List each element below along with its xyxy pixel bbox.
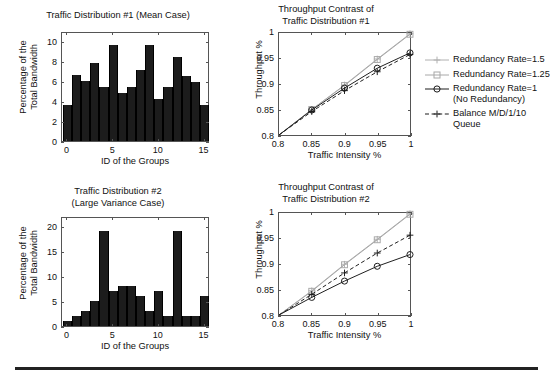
x-tick: [204, 139, 205, 142]
x-tick-label: 15: [199, 145, 209, 155]
x-axis-title: ID of the Groups: [61, 341, 209, 351]
bar: [72, 316, 81, 326]
legend-plus-icon: [424, 108, 450, 119]
y-tick: [206, 302, 209, 303]
line-series: [279, 33, 410, 135]
x-tick: [158, 324, 159, 327]
data-point-plus: [341, 270, 348, 277]
y-tick: [408, 316, 411, 317]
legend-item: Balance M/D/1/10 Queue: [424, 108, 552, 131]
y-tick-label: 8: [29, 57, 57, 67]
y-tick: [206, 252, 209, 253]
legend-circle-icon: [424, 83, 450, 94]
x-tick: [311, 32, 312, 35]
legend: Redundancy Rate=1.5Redundancy Rate=1.25R…: [424, 54, 552, 126]
legend-plus-icon: [424, 54, 450, 65]
y-tick: [408, 136, 411, 137]
x-tick: [112, 32, 113, 35]
y-tick: [206, 142, 209, 143]
x-tick-label: 0.95: [369, 319, 387, 329]
bar: [90, 63, 99, 141]
y-tick-label: 0.9: [244, 79, 274, 89]
x-axis-title: Traffic Intensity %: [278, 150, 411, 160]
bar: [154, 291, 163, 326]
y-tick: [206, 102, 209, 103]
bar: [191, 82, 200, 141]
bar: [72, 75, 81, 141]
y-tick: [278, 32, 281, 33]
y-tick-label: 20: [29, 222, 57, 232]
x-axis-title: Traffic Intensity %: [278, 330, 411, 340]
x-tick-label: 5: [110, 330, 115, 340]
y-tick: [61, 327, 64, 328]
y-tick-label: 10: [29, 37, 57, 47]
bar: [63, 321, 72, 326]
bar: [163, 87, 172, 141]
x-tick: [158, 217, 159, 220]
panel-throughput-contrast-1: Throughput Contrast of Traffic Distribut…: [236, 4, 421, 170]
y-tick: [61, 122, 64, 123]
panel-title: Throughput Contrast of Traffic Distribut…: [242, 4, 410, 27]
x-tick: [411, 32, 412, 35]
x-tick-label: 0: [64, 330, 69, 340]
bar: [173, 57, 182, 141]
bar-series: [62, 33, 208, 141]
bar: [81, 81, 90, 141]
y-tick: [61, 62, 64, 63]
x-tick-label: 15: [199, 330, 209, 340]
bar: [163, 316, 172, 326]
y-tick: [278, 58, 281, 59]
x-tick: [411, 212, 412, 215]
x-tick: [345, 133, 346, 136]
y-tick: [408, 290, 411, 291]
x-tick: [112, 139, 113, 142]
x-tick: [158, 32, 159, 35]
y-tick: [408, 110, 411, 111]
x-tick: [66, 324, 67, 327]
panel-traffic-distribution-2: Traffic Distribution #2 (Large Variance …: [8, 186, 228, 351]
y-tick: [408, 264, 411, 265]
x-tick: [112, 217, 113, 220]
data-point-plus: [374, 250, 381, 257]
bar: [200, 105, 209, 141]
bar: [99, 231, 108, 326]
bar: [136, 296, 145, 326]
bar: [127, 87, 136, 141]
y-tick: [61, 277, 64, 278]
y-tick: [408, 32, 411, 33]
y-tick: [206, 122, 209, 123]
line-series: [279, 213, 410, 315]
bar: [118, 286, 127, 326]
plot-area: [278, 212, 411, 316]
x-tick-label: 10: [153, 330, 163, 340]
bar-series: [62, 218, 208, 326]
x-tick: [311, 313, 312, 316]
y-tick-label: 0.9: [244, 259, 274, 269]
x-tick-label: 5: [110, 145, 115, 155]
panel-title: Throughput Contrast of Traffic Distribut…: [242, 182, 410, 205]
y-tick: [61, 302, 64, 303]
x-tick-label: 10: [153, 145, 163, 155]
data-point-plus: [434, 111, 441, 118]
y-tick: [278, 110, 281, 111]
x-tick: [345, 32, 346, 35]
legend-label: Redundancy Rate=1.25: [453, 69, 550, 80]
x-tick: [378, 133, 379, 136]
legend-item: Redundancy Rate=1.5: [424, 54, 545, 65]
bar: [99, 87, 108, 141]
x-tick: [112, 324, 113, 327]
x-tick-label: 0.85: [302, 319, 320, 329]
bar: [182, 76, 191, 141]
y-tick-label: 0.85: [244, 105, 274, 115]
y-tick-label: 0.85: [244, 285, 274, 295]
x-tick: [204, 32, 205, 35]
plot-area: [61, 217, 209, 327]
x-tick: [345, 212, 346, 215]
y-tick-label: 1: [244, 27, 274, 37]
y-tick: [278, 238, 281, 239]
bar: [136, 70, 145, 141]
panel-throughput-contrast-2: Throughput Contrast of Traffic Distribut…: [236, 182, 421, 350]
y-tick: [278, 212, 281, 213]
figure-canvas: Traffic Distribution #1 (Mean Case) Perc…: [0, 0, 553, 383]
y-tick: [206, 227, 209, 228]
